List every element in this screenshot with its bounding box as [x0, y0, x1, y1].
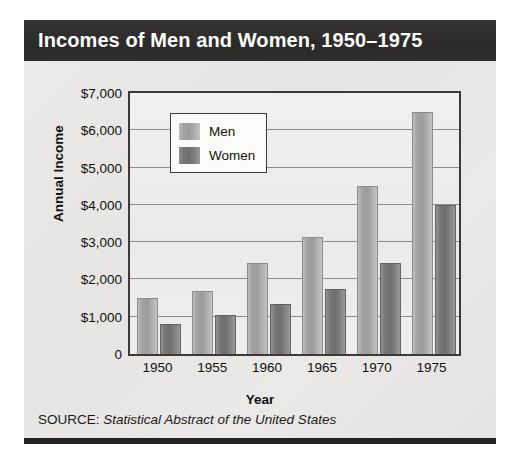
y-tick-label: $2,000: [44, 272, 122, 287]
bar-women-1970: [380, 263, 401, 354]
legend-swatch-icon: [179, 123, 200, 140]
y-tick-label: $5,000: [44, 160, 122, 175]
bar-men-1975: [412, 112, 433, 354]
legend-swatch-icon: [179, 147, 200, 164]
plot-area: MenWomen: [128, 91, 461, 356]
bar-group: [412, 93, 456, 354]
y-tick-label: $6,000: [44, 123, 122, 138]
x-tick-label: 1975: [402, 360, 462, 375]
chart-title: Incomes of Men and Women, 1950–1975: [38, 29, 422, 52]
bar-women-1950: [160, 324, 181, 354]
y-tick-label: $7,000: [44, 86, 122, 101]
source-value: Statistical Abstract of the United State…: [103, 412, 336, 427]
bar-women-1955: [215, 315, 236, 354]
bar-women-1960: [270, 304, 291, 354]
x-tick-label: 1970: [347, 360, 407, 375]
bar-men-1955: [192, 291, 213, 354]
y-tick-label: $1,000: [44, 309, 122, 324]
y-axis-tick-labels: 0$1,000$2,000$3,000$4,000$5,000$6,000$7,…: [36, 91, 122, 356]
chart-figure: Incomes of Men and Women, 1950–1975 Annu…: [24, 20, 496, 444]
x-tick-label: 1950: [127, 360, 187, 375]
bar-women-1965: [325, 289, 346, 354]
y-tick-label: $3,000: [44, 235, 122, 250]
y-tick-label: 0: [44, 347, 122, 362]
chart-legend: MenWomen: [170, 113, 267, 173]
bar-women-1975: [435, 205, 456, 354]
bottom-rule: [24, 438, 496, 444]
bar-men-1965: [302, 237, 323, 354]
legend-item-women: Women: [179, 145, 255, 165]
source-note: SOURCE: Statistical Abstract of the Unit…: [38, 412, 336, 427]
legend-label: Women: [209, 148, 255, 163]
x-tick-label: 1955: [182, 360, 242, 375]
source-label: SOURCE:: [38, 412, 100, 427]
bar-men-1950: [137, 298, 158, 354]
x-axis-tick-labels: 195019551960196519701975: [128, 360, 461, 384]
x-axis-title: Year: [24, 392, 496, 407]
bar-group: [302, 93, 346, 354]
bar-men-1970: [357, 186, 378, 354]
bar-men-1960: [247, 263, 268, 354]
legend-label: Men: [209, 124, 235, 139]
x-tick-label: 1965: [292, 360, 352, 375]
chart-title-bar: Incomes of Men and Women, 1950–1975: [24, 20, 496, 61]
legend-item-men: Men: [179, 121, 255, 141]
y-tick-label: $4,000: [44, 197, 122, 212]
x-tick-label: 1960: [237, 360, 297, 375]
bar-group: [357, 93, 401, 354]
